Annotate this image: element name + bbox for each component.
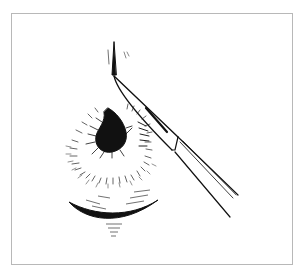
lesion-icon: [86, 108, 132, 158]
lower-lid-shadow: [69, 190, 158, 236]
scalpel-icon: [108, 42, 238, 217]
medical-illustration: [0, 0, 301, 274]
